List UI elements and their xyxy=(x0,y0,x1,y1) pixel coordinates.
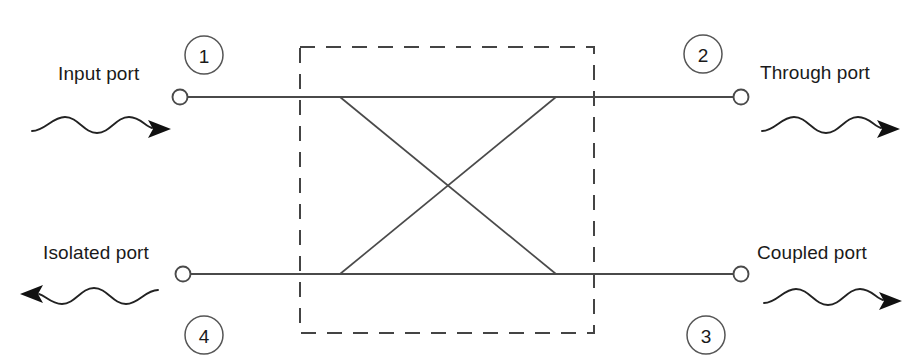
port-terminal-isolated xyxy=(176,267,191,282)
port-number-text-3: 3 xyxy=(701,326,712,347)
label-isolated-port: Isolated port xyxy=(43,242,149,263)
wave-arrow-coupled-curve xyxy=(764,289,883,305)
wave-arrow-through-curve xyxy=(762,117,881,133)
wave-arrow-coupled-head xyxy=(879,292,902,310)
coupler-diagram: 1 2 3 4 Input port Through port Isolated… xyxy=(0,0,917,364)
port-number-text-4: 4 xyxy=(199,326,210,347)
wave-arrow-isolated xyxy=(20,285,158,304)
diagram-canvas: 1 2 3 4 Input port Through port Isolated… xyxy=(0,0,917,364)
label-input-port: Input port xyxy=(58,63,140,84)
port-terminal-through xyxy=(734,90,749,105)
port-terminal-input xyxy=(173,90,188,105)
wave-arrow-input xyxy=(32,117,171,138)
coupling-region-dashed-box xyxy=(300,47,594,333)
wave-arrow-through xyxy=(762,117,900,138)
label-coupled-port: Coupled port xyxy=(757,242,868,263)
wave-arrow-coupled xyxy=(764,289,902,310)
wave-arrow-isolated-curve xyxy=(39,288,158,304)
wave-arrow-input-head xyxy=(148,120,171,138)
port-number-badge-1: 1 xyxy=(185,36,223,74)
wave-arrow-input-curve xyxy=(32,117,152,133)
wave-arrow-through-head xyxy=(877,120,900,138)
port-number-text-1: 1 xyxy=(199,46,210,67)
port-number-badge-4: 4 xyxy=(185,316,223,354)
port-number-badge-3: 3 xyxy=(687,316,725,354)
label-through-port: Through port xyxy=(760,62,871,83)
port-number-badge-2: 2 xyxy=(684,35,722,73)
port-number-text-2: 2 xyxy=(698,45,709,66)
port-terminal-coupled xyxy=(734,267,749,282)
